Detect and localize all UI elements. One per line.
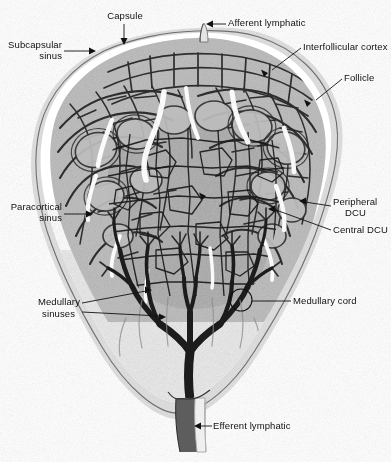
- label-central-dcu: Central DCU: [333, 225, 388, 236]
- label-paracortical-sinus-line2: sinus: [0, 213, 62, 224]
- label-subcapsular-sinus-line1: Subcapsular: [0, 40, 62, 51]
- label-peripheral-dcu-line1: Peripheral: [333, 197, 377, 208]
- label-medullary-cord: Medullary cord: [293, 296, 357, 307]
- label-paracortical-sinus-line1: Paracortical: [0, 202, 62, 213]
- label-peripheral-dcu-line2: DCU: [345, 208, 366, 219]
- afferent-lymphatic-vessel: [200, 23, 208, 42]
- label-efferent-lymphatic: Efferent lymphatic: [213, 421, 291, 432]
- lymph-node-figure: Capsule Afferent lymphatic Subcapsular s…: [0, 0, 391, 462]
- label-medullary-sinuses-line2: sinuses: [16, 309, 75, 320]
- label-follicle: Follicle: [344, 73, 374, 84]
- label-subcapsular-sinus-line2: sinus: [0, 51, 62, 62]
- label-medullary-sinuses-line1: Medullary: [16, 297, 80, 308]
- label-interfollicular-cortex: Interfollicular cortex: [303, 42, 388, 53]
- label-capsule: Capsule: [98, 11, 152, 22]
- label-afferent-lymphatic: Afferent lymphatic: [228, 18, 306, 29]
